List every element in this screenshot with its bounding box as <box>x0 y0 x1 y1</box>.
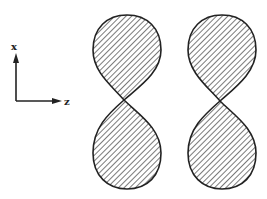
lower-lobe-1 <box>93 100 161 189</box>
x-axis-arrow-icon <box>13 53 19 63</box>
orbital-lobe-pair-2 <box>188 15 256 189</box>
z-axis-label: z <box>64 96 70 107</box>
z-axis-arrow-icon <box>52 98 62 104</box>
orbital-diagram: x z <box>0 0 267 199</box>
x-axis-label: x <box>11 41 18 52</box>
coordinate-axes: x z <box>11 41 70 107</box>
upper-lobe-1 <box>93 15 161 100</box>
orbital-lobe-pair-1 <box>93 15 161 189</box>
upper-lobe-2 <box>188 15 256 101</box>
lower-lobe-2 <box>188 101 256 189</box>
